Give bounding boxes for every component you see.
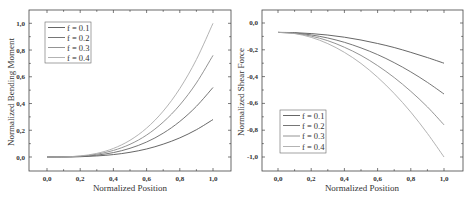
- y-tick-label: 0,2: [16, 127, 25, 135]
- legend-label: f = 0.1: [67, 23, 90, 33]
- x-tick-label: 0,8: [406, 175, 415, 183]
- x-tick-label: 0,6: [142, 175, 151, 183]
- x-tick-label: 0,4: [340, 175, 349, 183]
- bending-moment-plot: 0,0 0,2 0,4 0,6 0,8 1,0 0,0 0,2 0,4 0,6 …: [0, 0, 235, 197]
- legend: f = 0.1 f = 0.2 f = 0.3 f = 0.4: [280, 110, 326, 153]
- x-axis-label: Normalized Position: [93, 183, 168, 193]
- y-axis-label: Normalized Shear Force: [236, 48, 246, 136]
- y-tick-label: 0,0: [249, 19, 258, 27]
- x-tick-label: 0,4: [109, 175, 118, 183]
- y-tick-label: 1,0: [16, 20, 25, 28]
- x-tick-label: 1,0: [209, 175, 218, 183]
- legend-label: f = 0.1: [302, 111, 325, 121]
- bending-moment-chart: 0,0 0,2 0,4 0,6 0,8 1,0 0,0 0,2 0,4 0,6 …: [0, 0, 235, 197]
- y-tick-label: -0,8: [247, 126, 259, 134]
- y-tick-label: 0,4: [16, 100, 25, 108]
- data-series-line: [47, 55, 213, 157]
- x-tick-label: 0,6: [373, 175, 382, 183]
- y-tick-label: 0,8: [16, 47, 25, 55]
- x-tick-label: 0,0: [43, 175, 52, 183]
- x-tick-label: 1,0: [440, 175, 449, 183]
- y-tick-label: 0,6: [16, 73, 25, 81]
- data-series-line: [47, 120, 213, 157]
- data-series-line: [47, 87, 213, 157]
- legend-label: f = 0.2: [67, 33, 90, 43]
- legend-label: f = 0.4: [67, 53, 90, 63]
- x-tick-label: 0,8: [175, 175, 184, 183]
- legend-label: f = 0.3: [67, 43, 90, 53]
- y-tick-label: -0,6: [247, 99, 259, 107]
- legend: f = 0.1 f = 0.2 f = 0.3 f = 0.4: [45, 22, 91, 63]
- y-tick-label: -0,4: [247, 73, 259, 81]
- y-tick-label: -0,2: [247, 46, 259, 54]
- legend-label: f = 0.3: [302, 131, 325, 141]
- y-tick-label: 0,0: [16, 154, 25, 162]
- x-axis-label: Normalized Position: [325, 183, 400, 193]
- legend-label: f = 0.2: [302, 121, 325, 131]
- shear-force-chart: 0,0 -0,2 -0,4 -0,6 -0,8 -1,0 0,0 0,2 0,4…: [235, 0, 471, 197]
- y-axis-label: Normalized Bending Moment: [6, 38, 16, 146]
- x-tick-label: 0,2: [307, 175, 316, 183]
- x-tick-label: 0,2: [76, 175, 85, 183]
- legend-label: f = 0.4: [302, 142, 325, 152]
- shear-force-plot: 0,0 -0,2 -0,4 -0,6 -0,8 -1,0 0,0 0,2 0,4…: [235, 0, 471, 197]
- x-tick-label: 0,0: [274, 175, 283, 183]
- y-tick-label: -1,0: [247, 153, 259, 161]
